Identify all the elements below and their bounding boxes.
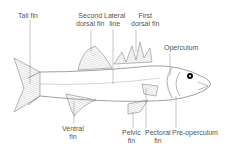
label-operculum: Operculum	[164, 44, 198, 52]
label-ventral-fin: Ventral fin	[62, 125, 84, 141]
label-pectoral-fin: Pectoral fin	[145, 129, 171, 145]
first-dorsal-fin-shape	[114, 42, 152, 64]
second-dorsal-fin-shape	[78, 46, 112, 70]
tail-fin-shape	[14, 58, 40, 112]
label-tail-fin: Tail fin	[18, 12, 38, 20]
lateral-line-shape	[40, 78, 160, 84]
operculum-shape	[167, 68, 172, 98]
label-first-dorsal-fin: First dorsal fin	[131, 12, 159, 28]
label-pelvic-fin: Pelvic fin	[122, 129, 141, 145]
fish-body	[28, 66, 210, 105]
label-pre-operculum: Pre-operculum	[172, 129, 218, 137]
pectoral-fin-shape	[142, 84, 158, 96]
label-second-dorsal-fin: Second dorsal fin	[76, 12, 104, 28]
label-lateral-line: Lateral line	[104, 12, 125, 28]
pre-operculum-shape	[176, 72, 180, 96]
pelvic-fin-shape	[128, 100, 148, 114]
ventral-fin-shape	[66, 94, 96, 116]
